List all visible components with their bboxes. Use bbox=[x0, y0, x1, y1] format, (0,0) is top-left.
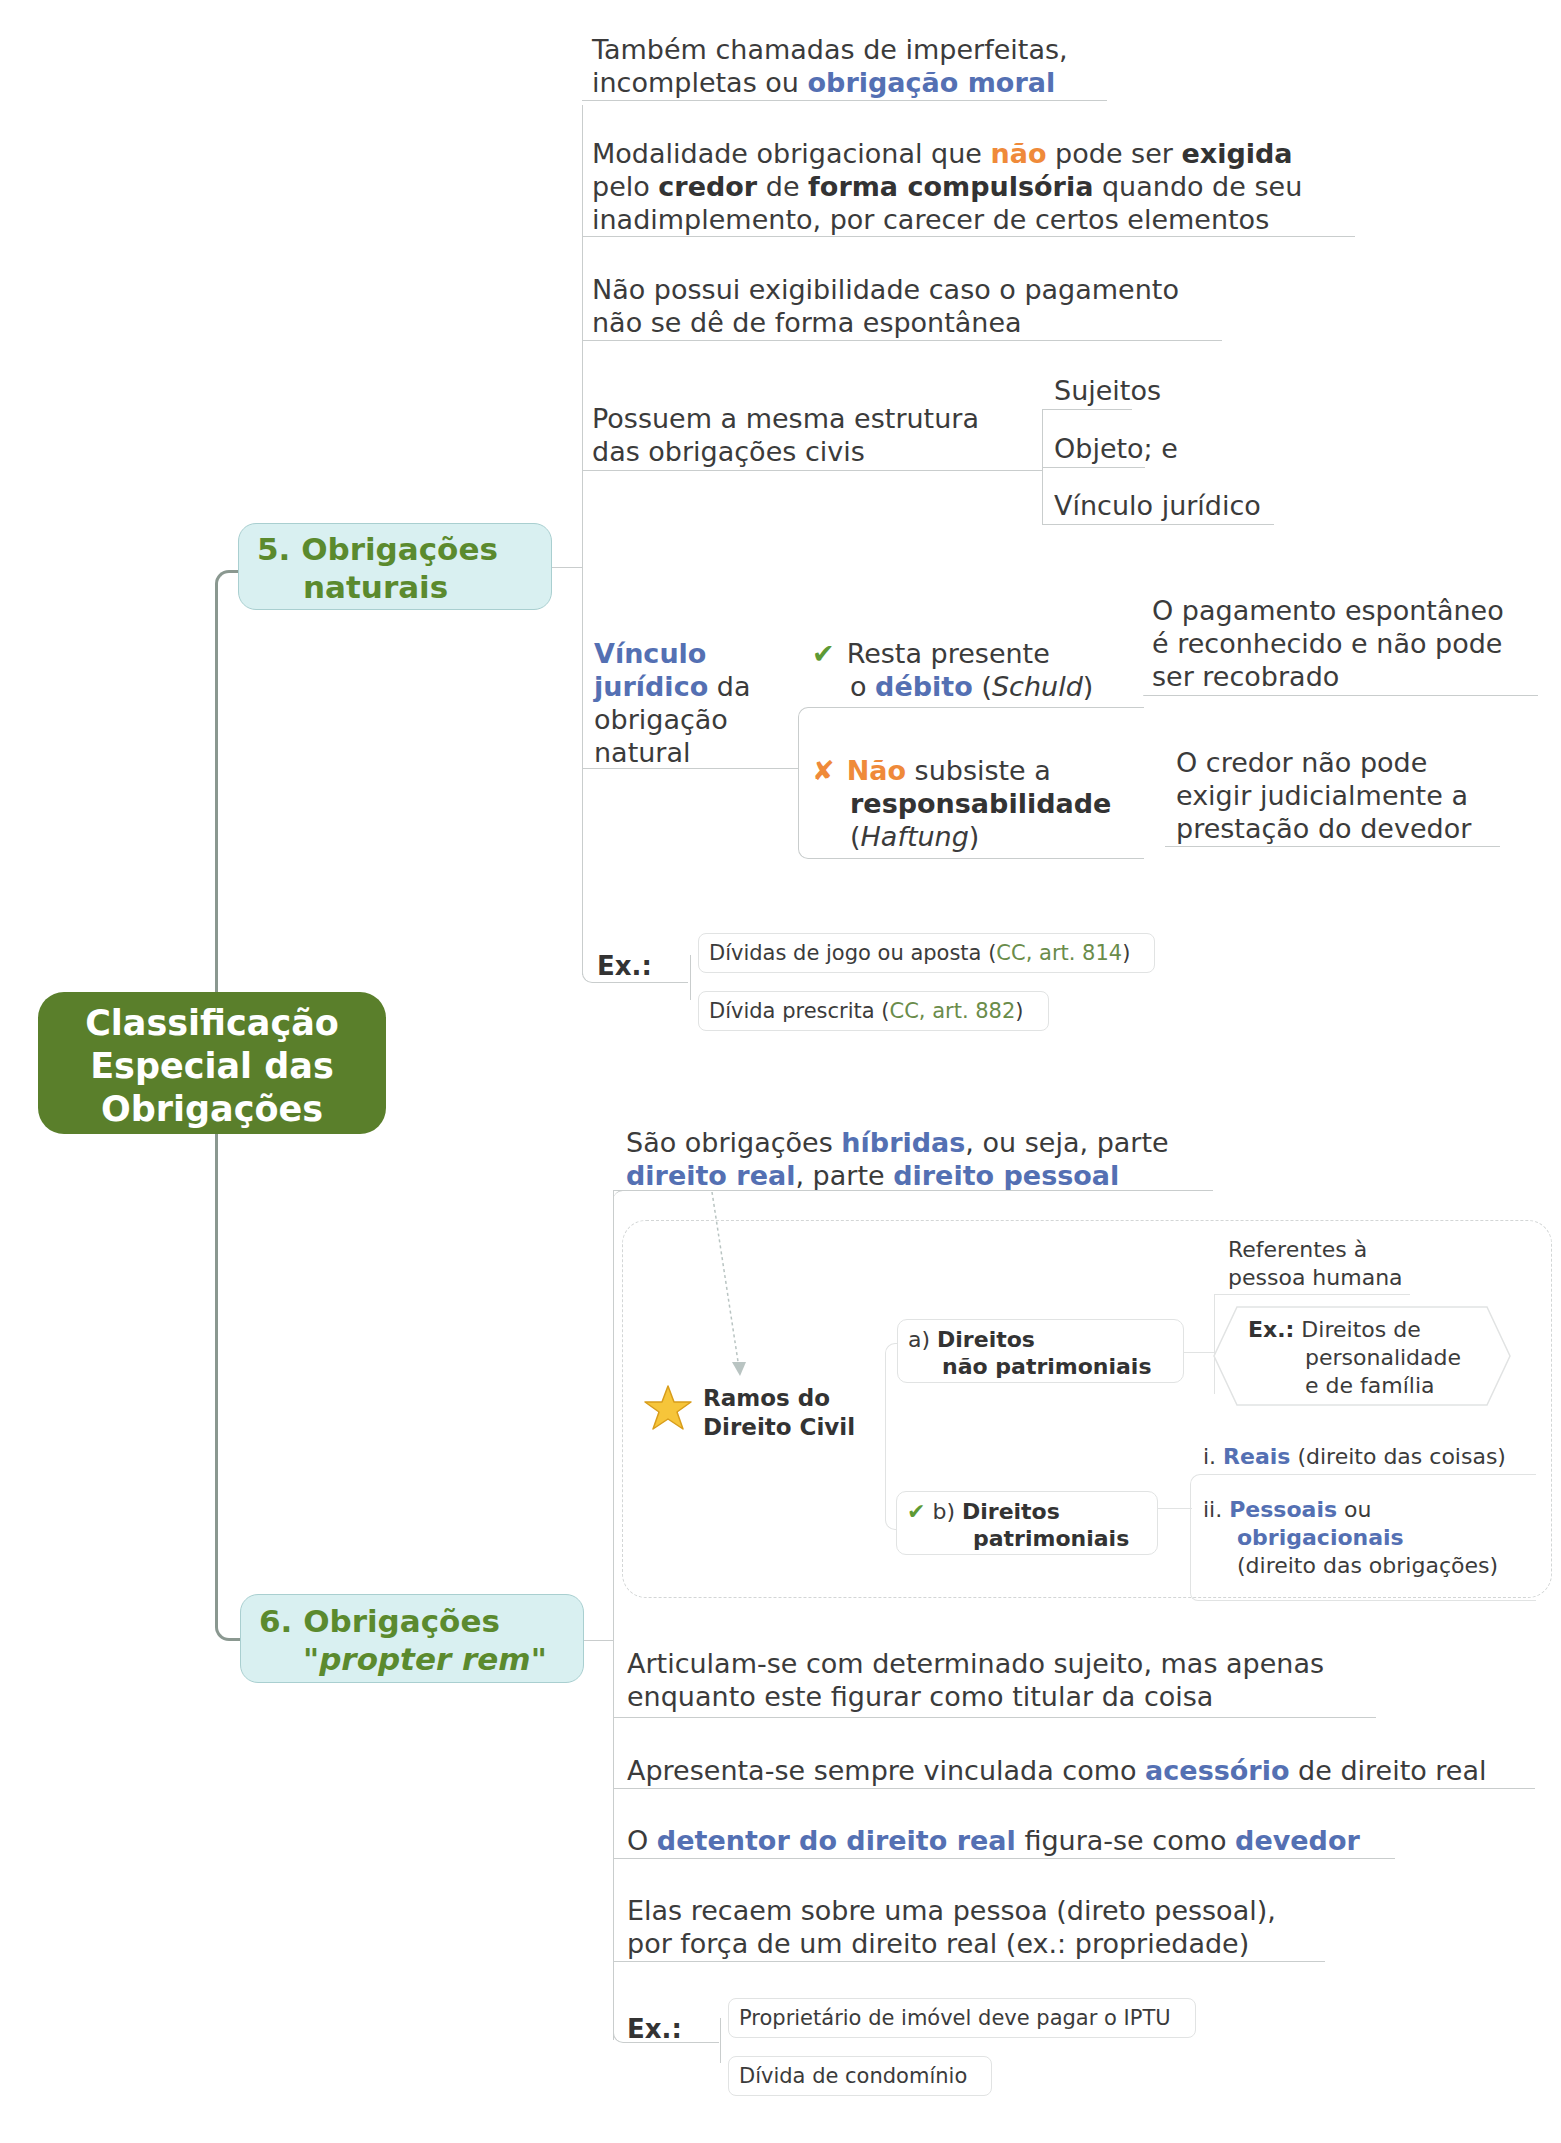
s5-examples-branch bbox=[690, 955, 691, 1000]
root-title-line1: Classificação bbox=[38, 1002, 386, 1045]
b-child-pessoais: ii. Pessoais ou obrigacionais (direito d… bbox=[1203, 1496, 1498, 1580]
root-title-line3: Obrigações bbox=[38, 1088, 386, 1131]
root-title-line2: Especial das bbox=[38, 1045, 386, 1088]
node6-title-line1: 6. Obrigações bbox=[259, 1602, 583, 1640]
s5-cross-detail: O credor não pode exigir judicialmente a… bbox=[1176, 746, 1471, 845]
s5-item-2: Modalidade obrigacional que não pode ser… bbox=[592, 137, 1302, 236]
s5-child-sujeitos: Sujeitos bbox=[1054, 374, 1161, 407]
referentes-underline bbox=[1214, 1294, 1410, 1295]
s5-vinculo-juridico: Vínculo jurídico da obrigação natural bbox=[594, 637, 750, 769]
s6-examples-branch bbox=[720, 2018, 721, 2063]
s5-check-row: ✔Resta presente o débito (Schuld) bbox=[812, 637, 1093, 703]
a-child-referentes: Referentes à pessoa humana bbox=[1228, 1236, 1403, 1292]
vinculo-underline-main bbox=[582, 768, 798, 769]
s5-examples-corner bbox=[582, 940, 688, 983]
cross-icon: ✘ bbox=[812, 755, 835, 786]
s5-item-3: Não possui exigibilidade caso o pagament… bbox=[592, 273, 1179, 339]
a-connector bbox=[1184, 1352, 1214, 1353]
a-child-example: Ex.: Direitos de personalidade e de famí… bbox=[1248, 1316, 1461, 1400]
s5-child-vinculo: Vínculo jurídico bbox=[1054, 489, 1261, 522]
node5-title-line1: 5. Obrigações bbox=[257, 530, 551, 568]
highlight-obrigacao-moral: obrigação moral bbox=[808, 67, 1056, 98]
node5-connector bbox=[552, 567, 582, 568]
objeto-underline bbox=[1042, 467, 1145, 468]
s5-check-detail: O pagamento espontâneo é reconhecido e n… bbox=[1152, 594, 1504, 693]
s5-item-4-underline bbox=[582, 470, 1042, 471]
section6-spine-top bbox=[613, 1190, 623, 1203]
check-icon: ✔ bbox=[812, 638, 835, 669]
star-icon bbox=[643, 1384, 693, 1432]
relation-arrow-icon bbox=[700, 1190, 760, 1390]
ramos-a-nao-patrimoniais[interactable]: a) Direitos não patrimoniais bbox=[897, 1319, 1184, 1383]
s6-example-2: Dívida de condomínio bbox=[728, 2056, 992, 2096]
ramos-label: Ramos do Direito Civil bbox=[703, 1384, 855, 1442]
section6-spine bbox=[613, 1190, 614, 2040]
trunk-line-upper bbox=[215, 570, 240, 993]
s6-item-2: Apresenta-se sempre vinculada como acess… bbox=[627, 1754, 1487, 1787]
s6-item-1: Articulam-se com determinado sujeito, ma… bbox=[627, 1647, 1324, 1713]
s6-intro: São obrigações híbridas, ou seja, parte … bbox=[626, 1126, 1169, 1192]
s5-example-2: Dívida prescrita (CC, art. 882) bbox=[698, 991, 1049, 1031]
ramos-b-patrimoniais[interactable]: ✔ b) Direitos patrimoniais bbox=[896, 1491, 1158, 1555]
b-connector bbox=[1158, 1508, 1192, 1509]
s5-child-objeto: Objeto; e bbox=[1054, 432, 1178, 465]
s6-examples-corner bbox=[613, 2000, 719, 2043]
s6-item-2-underline bbox=[613, 1788, 1535, 1789]
s6-item-3: O detentor do direito real figura-se com… bbox=[627, 1824, 1360, 1857]
node-obrigacoes-propter-rem[interactable]: 6. Obrigações "propter rem" bbox=[240, 1594, 584, 1683]
s5-example-1: Dívidas de jogo ou aposta (CC, art. 814) bbox=[698, 933, 1155, 973]
b-child-reais: i. Reais (direito das coisas) bbox=[1203, 1443, 1506, 1471]
sujeitos-underline bbox=[1042, 409, 1132, 410]
s5-item-3-underline bbox=[582, 340, 1222, 341]
node6-connector bbox=[584, 1640, 614, 1641]
root-node[interactable]: Classificação Especial das Obrigações bbox=[38, 992, 386, 1134]
s5-item-1: Também chamadas de imperfeitas, incomple… bbox=[592, 33, 1068, 99]
node6-title-line2: "propter rem" bbox=[259, 1640, 583, 1678]
s5-item-1-underline bbox=[582, 100, 1107, 101]
s6-item-1-underline bbox=[613, 1717, 1376, 1718]
check-detail-underline bbox=[1143, 695, 1538, 696]
s5-cross-row: ✘Não subsiste a responsabilidade (Haftun… bbox=[812, 754, 1111, 853]
node-obrigacoes-naturais[interactable]: 5. Obrigações naturais bbox=[238, 523, 552, 610]
node5-title-line2: naturais bbox=[257, 568, 551, 606]
s6-item-4-underline bbox=[613, 1961, 1325, 1962]
s6-item-3-underline bbox=[613, 1858, 1395, 1859]
check-icon: ✔ bbox=[907, 1499, 925, 1524]
cross-detail-underline bbox=[1165, 846, 1500, 847]
vinculo-underline bbox=[1042, 524, 1274, 525]
trunk-line-lower bbox=[215, 1133, 242, 1641]
s6-item-4: Elas recaem sobre uma pessoa (direto pes… bbox=[627, 1894, 1276, 1960]
s5-item-4: Possuem a mesma estrutura das obrigações… bbox=[592, 402, 979, 468]
s5-item-2-underline bbox=[582, 236, 1355, 237]
s6-example-1: Proprietário de imóvel deve pagar o IPTU bbox=[728, 1998, 1196, 2038]
